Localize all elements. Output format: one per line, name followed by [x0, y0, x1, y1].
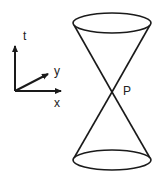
- y-axis-label: y: [54, 64, 60, 78]
- cone-edge-right-upper: [112, 25, 150, 92]
- light-cone-diagram: t y x P: [0, 0, 167, 183]
- x-axis-label: x: [54, 96, 60, 110]
- t-axis-label: t: [23, 29, 27, 43]
- cone-edge-right-lower: [112, 92, 150, 158]
- light-cone: [73, 13, 151, 170]
- cone-edge-left-upper: [74, 25, 112, 92]
- axes: t y x: [15, 29, 61, 110]
- past-cone-rim: [73, 150, 151, 170]
- cone-edge-left-lower: [74, 92, 112, 158]
- vertex-p-label: P: [123, 84, 131, 98]
- y-axis: [15, 74, 48, 91]
- future-cone-rim: [73, 13, 151, 33]
